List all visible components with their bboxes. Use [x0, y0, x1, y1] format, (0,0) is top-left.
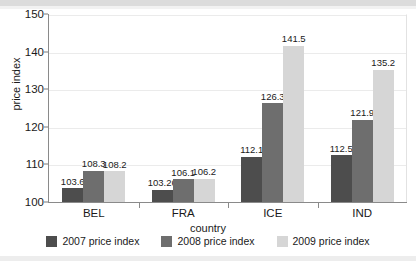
legend-label: 2007 price index: [62, 235, 139, 247]
legend-item[interactable]: 2009 price index: [277, 235, 370, 247]
bar-value-label: 103.6: [61, 177, 85, 187]
bar-value-label: 135.2: [371, 58, 395, 68]
top-edge-strip: [0, 6, 416, 9]
y-axis-tick-label: 100: [10, 196, 44, 208]
x-axis-tick-mark: [318, 202, 319, 208]
bar-group: 103.26106.1106.2: [152, 15, 215, 202]
x-axis-tick-mark: [139, 202, 140, 208]
bottom-edge-band: [0, 256, 416, 261]
y-axis-tick-label: 110: [10, 158, 44, 170]
legend-label: 2009 price index: [293, 235, 370, 247]
y-axis-tick-label: 150: [10, 8, 44, 20]
bar-column[interactable]: 141.5: [283, 15, 304, 202]
y-axis-tick-label: 130: [10, 83, 44, 95]
legend-swatch: [46, 236, 57, 247]
bar-column[interactable]: 126.3: [262, 15, 283, 202]
bar[interactable]: [262, 103, 283, 202]
y-axis-tick-label: 140: [10, 46, 44, 58]
bar-column[interactable]: 103.26: [152, 15, 173, 202]
legend-item[interactable]: 2008 price index: [161, 235, 254, 247]
bar-value-label: 141.5: [282, 34, 306, 44]
bar-value-label: 112.5: [330, 144, 353, 154]
bar[interactable]: [152, 190, 173, 202]
y-axis-tick-mark: [44, 126, 48, 127]
bar-column[interactable]: 108.3: [83, 15, 104, 202]
y-axis-tick-mark: [44, 51, 48, 52]
bar-group: 103.6108.3108.2: [62, 15, 125, 202]
bar[interactable]: [62, 188, 83, 202]
bar-column[interactable]: 135.2: [373, 15, 394, 202]
plot-area: 103.6108.3108.2103.26106.1106.2112.1126.…: [49, 14, 407, 202]
bar-column[interactable]: 121.9: [352, 15, 373, 202]
y-axis-tick-mark: [44, 89, 48, 90]
legend-swatch: [277, 236, 288, 247]
bar[interactable]: [173, 179, 194, 202]
bar-value-label: 112.1: [240, 145, 263, 155]
bar-chart-figure: price index 100110120130140150 103.6108.…: [0, 0, 416, 261]
bar[interactable]: [241, 157, 262, 202]
bar[interactable]: [352, 120, 373, 202]
x-axis-category-label: FRA: [172, 207, 195, 219]
y-axis-tick-label: 120: [10, 121, 44, 133]
bar[interactable]: [194, 179, 215, 202]
x-axis-category-label: IND: [352, 207, 372, 219]
legend-label: 2008 price index: [177, 235, 254, 247]
bar-value-label: 108.2: [103, 160, 127, 170]
bar-column[interactable]: 106.2: [194, 15, 215, 202]
y-axis-tick-mark: [44, 14, 48, 15]
bar[interactable]: [104, 171, 125, 202]
bar[interactable]: [283, 46, 304, 202]
bar-column[interactable]: 106.1: [173, 15, 194, 202]
bar-column[interactable]: 103.6: [62, 15, 83, 202]
bar-value-label: 106.2: [192, 167, 216, 177]
x-axis-category-label: ICE: [263, 207, 282, 219]
y-axis-tick-mark: [44, 164, 48, 165]
bar-value-label: 126.3: [261, 92, 285, 102]
legend-swatch: [161, 236, 172, 247]
x-axis-tick-mark: [228, 202, 229, 208]
x-axis-category-label: BEL: [83, 207, 105, 219]
chart-legend: 2007 price index2008 price index2009 pri…: [0, 235, 416, 247]
bar-column[interactable]: 112.5: [331, 15, 352, 202]
bar-group: 112.5121.9135.2: [331, 15, 394, 202]
bar[interactable]: [331, 155, 352, 202]
x-axis-label: country: [0, 222, 416, 234]
bar-group: 112.1126.3141.5: [241, 15, 304, 202]
bar-value-label: 121.9: [350, 108, 374, 118]
bar[interactable]: [373, 70, 394, 202]
bar-column[interactable]: 108.2: [104, 15, 125, 202]
legend-item[interactable]: 2007 price index: [46, 235, 139, 247]
bar-column[interactable]: 112.1: [241, 15, 262, 202]
bar[interactable]: [83, 171, 104, 202]
